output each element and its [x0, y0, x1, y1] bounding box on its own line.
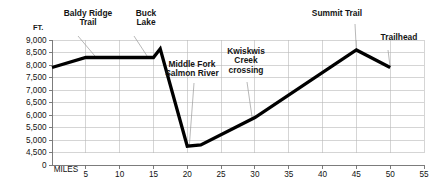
x-axis-tick-labels: 510152025303540455055 [84, 170, 429, 179]
leader-line-summit-trail [355, 24, 356, 50]
annotation-label-text: Lake [136, 17, 155, 27]
y-axis-tick-label: 9,000 [26, 36, 47, 45]
x-axis-tick-label: 5 [84, 170, 89, 179]
x-axis-tick-label: 50 [386, 170, 396, 179]
y-axis-tick-label: 6,000 [26, 111, 47, 120]
x-axis-tick-label: 10 [115, 170, 125, 179]
x-axis-tick-label: 35 [284, 170, 294, 179]
x-axis-tick-label: 20 [183, 170, 193, 179]
annotation-buck-lake: BuckLake [136, 8, 157, 27]
y-axis-tick-label: 6,500 [26, 98, 47, 107]
leader-line-kwiskwis-creek-crossing [247, 82, 252, 118]
x-axis-tick-label: 55 [419, 170, 429, 179]
annotation-label-text: Summit Trail [312, 8, 362, 18]
y-axis-tick-label: 7,000 [26, 86, 47, 95]
x-axis-tick-label: 30 [250, 170, 260, 179]
annotation-kwiskwis-creek-crossing: KwiskwisCreekcrossing [227, 46, 265, 75]
y-axis-tick-label: 4,500 [26, 148, 47, 157]
y-axis-tick-label: 5,000 [26, 136, 47, 145]
chart-canvas: 9,0008,5008,0007,5007,0006,5006,0005,500… [0, 0, 442, 188]
annotation-label-text: Trailhead [381, 32, 418, 42]
y-axis-unit-label: FT. [33, 23, 43, 32]
y-axis-tick-label: 0 [42, 161, 47, 170]
annotation-trailhead: Trailhead [381, 32, 418, 42]
y-axis-tick-label: 5,500 [26, 123, 47, 132]
x-axis-tick-label: 25 [217, 170, 227, 179]
x-axis-tick-label: 45 [352, 170, 362, 179]
annotation-labels: Baldy RidgeTrailBuckLakeMiddle ForkSalmo… [64, 8, 418, 78]
leader-line-middle-fork-salmon-river [189, 83, 194, 146]
y-axis-tick-labels: 9,0008,5008,0007,5007,0006,5006,0005,500… [26, 36, 47, 170]
elevation-profile-chart: 9,0008,5008,0007,5007,0006,5006,0005,500… [0, 0, 442, 188]
annotation-label-text: Trail [79, 17, 96, 27]
y-axis-tick-label: 7,500 [26, 73, 47, 82]
x-axis-tick-label: 40 [318, 170, 328, 179]
leader-line-baldy-ridge-trail [78, 36, 96, 57]
y-axis-tick-label: 8,500 [26, 48, 47, 57]
leader-line-buck-lake [134, 36, 148, 58]
x-axis-tick-label: 15 [149, 170, 159, 179]
annotation-middle-fork-salmon-river: Middle ForkSalmon River [165, 59, 219, 78]
y-axis-tick-label: 8,000 [26, 61, 47, 70]
annotation-label-text: crossing [229, 65, 264, 75]
annotation-baldy-ridge-trail: Baldy RidgeTrail [64, 8, 113, 27]
x-axis-title: MILES [54, 165, 79, 174]
annotation-summit-trail: Summit Trail [312, 8, 362, 18]
annotation-label-text: Salmon River [165, 68, 219, 78]
